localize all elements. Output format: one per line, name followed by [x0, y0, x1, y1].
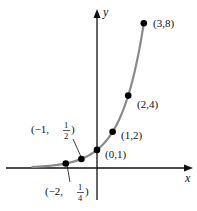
label-neg1-suffix: )	[71, 123, 75, 136]
label-neg2-den: 4	[78, 193, 83, 203]
label-neg2-prefix: (−2,	[45, 185, 63, 198]
y-axis-label: y	[102, 5, 109, 19]
data-point	[109, 129, 116, 136]
label-neg2-num: 1	[78, 182, 82, 192]
label-neg2-suffix: )	[85, 185, 89, 198]
x-axis-label: x	[184, 171, 191, 185]
label-2-4: (2,4)	[137, 98, 158, 111]
data-point	[141, 20, 148, 27]
data-point	[63, 160, 70, 167]
y-axis-arrow-icon	[94, 9, 101, 18]
label-neg1-den: 2	[64, 131, 68, 141]
data-point	[125, 92, 132, 99]
label-0-1: (0,1)	[105, 148, 126, 161]
data-point	[94, 147, 101, 154]
label-neg1-num: 1	[64, 120, 68, 130]
label-3-8: (3,8)	[153, 17, 174, 30]
exponential-graph: x y (3,8) (2,4) (1,2) (0,1) (−1, 1 2 ) (…	[0, 0, 197, 211]
data-point	[78, 156, 85, 163]
label-1-2: (1,2)	[121, 129, 142, 142]
label-neg1-prefix: (−1,	[31, 123, 49, 136]
